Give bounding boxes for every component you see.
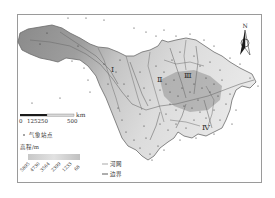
- svg-text:5895: 5895: [19, 161, 31, 173]
- region-label-2: Ⅱ: [157, 75, 162, 84]
- svg-text:500: 500: [67, 118, 78, 124]
- region-label-4: Ⅳ: [202, 123, 211, 132]
- svg-text:边界: 边界: [110, 170, 122, 178]
- svg-text:125250: 125250: [27, 118, 48, 124]
- svg-text:高程/m: 高程/m: [20, 143, 40, 151]
- scale-bar: km 0 125250 500: [19, 111, 86, 124]
- svg-text:河网: 河网: [110, 160, 122, 168]
- north-arrow: N: [240, 22, 250, 55]
- svg-text:km: km: [76, 111, 86, 118]
- svg-text:2399: 2399: [50, 161, 62, 173]
- svg-text:0: 0: [19, 118, 23, 124]
- svg-text:3564: 3564: [39, 161, 51, 173]
- svg-text:1233: 1233: [61, 161, 73, 173]
- map-canvas: Ⅰ Ⅱ Ⅲ Ⅳ N: [0, 0, 275, 198]
- region-label-3: Ⅲ: [184, 71, 192, 80]
- svg-text:N: N: [242, 22, 247, 29]
- svg-text:气象站点: 气象站点: [29, 131, 53, 139]
- svg-text:68: 68: [73, 164, 81, 172]
- region-label-1: Ⅰ: [111, 65, 114, 74]
- svg-text:4730: 4730: [29, 161, 41, 173]
- legend: 气象站点 高程/m 5895 4730 3564 2399 1233 68 河网…: [19, 131, 122, 178]
- elevation-color-ramp: [28, 154, 80, 160]
